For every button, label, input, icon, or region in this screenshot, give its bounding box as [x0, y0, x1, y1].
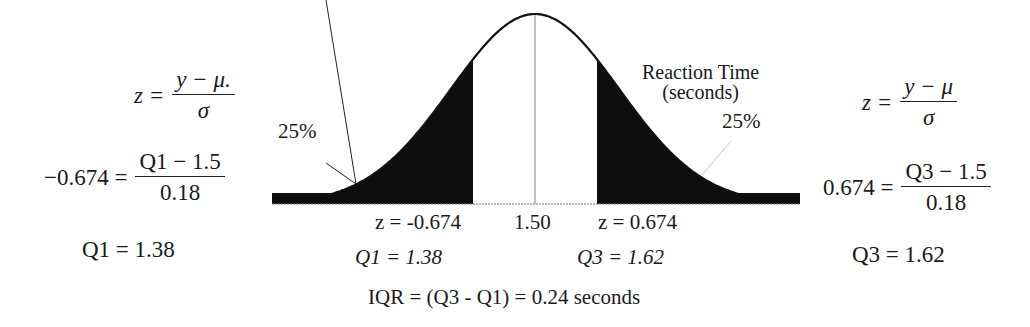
left-z-denominator: σ [198, 95, 209, 122]
right-tail-percent: 25% [722, 111, 761, 132]
left-z-formula: z = y − μ.σ [134, 68, 235, 122]
right-z-denominator: σ [923, 102, 934, 129]
z-right-label: z = 0.674 [598, 212, 677, 233]
left-pct-pointer-line [326, 163, 356, 184]
reaction-time-label: Reaction Time [642, 62, 759, 82]
q1-label: Q1 = 1.38 [355, 247, 442, 268]
left-q1-equation: −0.674 = Q1 − 1.50.18 [44, 150, 225, 204]
left-eq-lhs: −0.674 = [44, 166, 127, 189]
q3-label: Q3 = 1.62 [577, 247, 664, 268]
right-eq-numerator: Q3 − 1.5 [901, 160, 990, 187]
left-eq-numerator: Q1 − 1.5 [135, 150, 224, 177]
left-z-numerator: y − μ. [172, 68, 235, 95]
right-q3-result: Q3 = 1.62 [852, 243, 945, 266]
iqr-label: IQR = (Q3 - Q1) = 0.24 seconds [368, 287, 640, 308]
right-pct-pointer-line [702, 141, 731, 175]
left-q1-result: Q1 = 1.38 [82, 238, 175, 261]
bell-curve-line [272, 14, 800, 194]
z-left-label: z = -0.674 [375, 212, 461, 233]
left-pct-pointer [326, 0, 356, 184]
right-z-formula: z = y − μσ [862, 75, 957, 129]
right-q3-equation: 0.674 = Q3 − 1.50.18 [823, 160, 991, 214]
right-tail-shaded-area [272, 14, 800, 204]
left-eq-denominator: 0.18 [160, 177, 200, 204]
left-tail-percent: 25% [278, 121, 317, 142]
left-z-lhs: z = [134, 84, 164, 107]
right-eq-denominator: 0.18 [926, 187, 966, 214]
variable-label: Reaction Time (seconds) [642, 62, 759, 102]
right-z-lhs: z = [862, 91, 892, 114]
right-z-numerator: y − μ [900, 75, 957, 102]
seconds-label: (seconds) [642, 82, 759, 102]
left-tail-shaded-area [272, 14, 800, 204]
right-eq-lhs: 0.674 = [823, 176, 893, 199]
mean-label: 1.50 [514, 212, 551, 233]
